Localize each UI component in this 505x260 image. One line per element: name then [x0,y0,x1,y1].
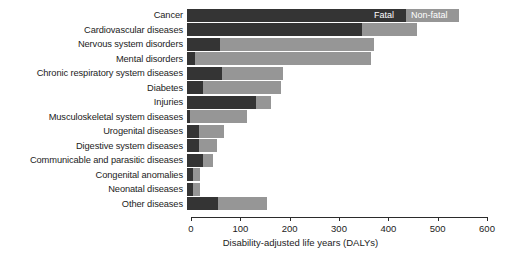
category-label: Other diseases [0,199,187,209]
bar-segment-fatal[interactable] [187,81,203,94]
x-axis: 0100200300400500600 [191,217,487,218]
x-axis-tick [339,217,340,221]
stacked-bar[interactable] [187,183,200,196]
bar-segment-fatal[interactable] [187,9,406,22]
bar-segment-non-fatal[interactable] [199,125,224,138]
bar-segment-fatal[interactable] [187,23,362,36]
bar-segment-fatal[interactable] [187,139,199,152]
chart-row: Digestive system diseases [0,139,505,152]
bar-segment-fatal[interactable] [187,197,218,210]
category-label: Neonatal diseases [0,184,187,194]
bar-segment-non-fatal[interactable] [193,168,200,181]
bar-segment-fatal[interactable] [187,125,199,138]
x-axis-tick-label: 300 [331,223,347,234]
bar-segment-non-fatal[interactable] [203,81,281,94]
bar-segment-non-fatal[interactable] [199,139,217,152]
category-label: Urogenital diseases [0,126,187,136]
stacked-bar[interactable] [187,154,213,167]
x-axis-tick [240,217,241,221]
stacked-bar[interactable] [187,125,224,138]
chart-row: Injuries [0,96,505,109]
category-label: Mental disorders [0,54,187,64]
bar-segment-non-fatal[interactable] [362,23,417,36]
category-label: Congenital anomalies [0,170,187,180]
stacked-bar[interactable] [187,168,200,181]
chart-row: Cardiovascular diseases [0,23,505,36]
x-axis-tick [191,217,192,221]
category-label: Injuries [0,97,187,107]
bar-segment-fatal[interactable] [187,154,203,167]
x-axis-tick [290,217,291,221]
category-label: Cardiovascular diseases [0,25,187,35]
chart-row: Diabetes [0,81,505,94]
chart-row: Other diseases [0,197,505,210]
stacked-bar[interactable] [187,197,267,210]
bar-segment-fatal[interactable] [187,52,195,65]
stacked-bar[interactable] [187,139,217,152]
category-label: Communicable and parasitic diseases [0,155,187,165]
x-axis-tick-label: 600 [479,223,495,234]
bar-segment-fatal[interactable] [187,38,220,51]
bar-segment-non-fatal[interactable] [195,52,371,65]
x-axis-title-text: Disability-adjusted life years (DALYs) [127,237,379,248]
chart-row: Urogenital diseases [0,125,505,138]
chart-row: Chronic respiratory system diseases [0,67,505,80]
stacked-bar[interactable] [187,96,271,109]
x-axis-tick [388,217,389,221]
chart-row: CancerFatalNon-fatal [0,9,505,22]
category-label: Digestive system diseases [0,141,187,151]
stacked-bar[interactable] [187,81,281,94]
stacked-bar[interactable] [187,110,247,123]
x-axis-tick-label: 0 [188,223,193,234]
x-axis-tick-label: 500 [430,223,446,234]
category-label: Nervous system disorders [0,39,187,49]
bar-segment-fatal[interactable] [187,67,222,80]
category-label: Cancer [0,10,187,20]
bar-segment-non-fatal[interactable] [193,183,200,196]
bar-segment-fatal[interactable] [187,96,256,109]
chart-row: Neonatal diseases [0,183,505,196]
category-label: Diabetes [0,83,187,93]
x-axis-title: Disability-adjusted life years (DALYs) [0,237,505,248]
category-label: Musculoskeletal system diseases [0,112,187,122]
chart-row: Communicable and parasitic diseases [0,154,505,167]
bar-segment-non-fatal[interactable] [222,67,283,80]
chart-row: Musculoskeletal system diseases [0,110,505,123]
stacked-bar[interactable] [187,67,283,80]
bar-segment-non-fatal[interactable] [256,96,271,109]
x-axis-tick [487,217,488,221]
bar-segment-non-fatal[interactable] [190,110,247,123]
x-axis-tick-label: 400 [380,223,396,234]
chart-plot-area: CancerFatalNon-fatalCardiovascular disea… [0,9,505,212]
chart-row: Congenital anomalies [0,168,505,181]
stacked-bar[interactable] [187,52,371,65]
stacked-bar[interactable] [187,38,374,51]
category-label: Chronic respiratory system diseases [0,68,187,78]
stacked-bar[interactable] [187,23,417,36]
x-axis-tick [438,217,439,221]
chart-row: Mental disorders [0,52,505,65]
dalys-stacked-bar-chart: CancerFatalNon-fatalCardiovascular disea… [0,0,505,260]
chart-row: Nervous system disorders [0,38,505,51]
bar-segment-non-fatal[interactable] [203,154,213,167]
stacked-bar[interactable]: FatalNon-fatal [187,9,459,22]
bar-segment-non-fatal[interactable] [218,197,267,210]
x-axis-tick-label: 200 [282,223,298,234]
x-axis-tick-label: 100 [232,223,248,234]
bar-segment-non-fatal[interactable] [406,9,459,22]
bar-segment-non-fatal[interactable] [220,38,374,51]
